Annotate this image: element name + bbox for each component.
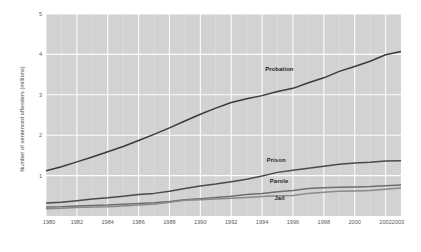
series-label-parole: Parole	[270, 178, 289, 184]
plot-area	[46, 14, 401, 216]
x-tick-label: 1980	[43, 219, 55, 225]
x-tick-label: 2003	[392, 219, 404, 225]
x-tick-label: 1994	[256, 219, 268, 225]
x-tick-label: 1982	[71, 219, 83, 225]
series-label-prison: Prison	[267, 157, 286, 163]
y-tick-label: 4	[28, 51, 42, 57]
x-tick-label: 1988	[163, 219, 175, 225]
y-axis-ticks: 12345	[24, 0, 42, 252]
x-tick-label: 1986	[132, 219, 144, 225]
series-line-probation	[46, 52, 401, 171]
y-tick-label: 1	[28, 173, 42, 179]
x-tick-label: 1984	[102, 219, 114, 225]
x-tick-label: 1998	[318, 219, 330, 225]
series-label-jail: Jail	[274, 195, 284, 201]
y-tick-label: 3	[28, 92, 42, 98]
x-tick-label: 2000	[348, 219, 360, 225]
x-tick-label: 1996	[287, 219, 299, 225]
x-tick-label: 1992	[225, 219, 237, 225]
y-tick-label: 2	[28, 132, 42, 138]
y-tick-label: 5	[28, 11, 42, 17]
series-label-probation: Probation	[265, 66, 293, 72]
x-tick-label: 1990	[194, 219, 206, 225]
series-line-parole	[46, 185, 401, 207]
plot-svg	[46, 14, 401, 216]
line-chart: Number of sentenced offenders (millions)…	[0, 0, 421, 252]
x-tick-label: 2002	[379, 219, 391, 225]
